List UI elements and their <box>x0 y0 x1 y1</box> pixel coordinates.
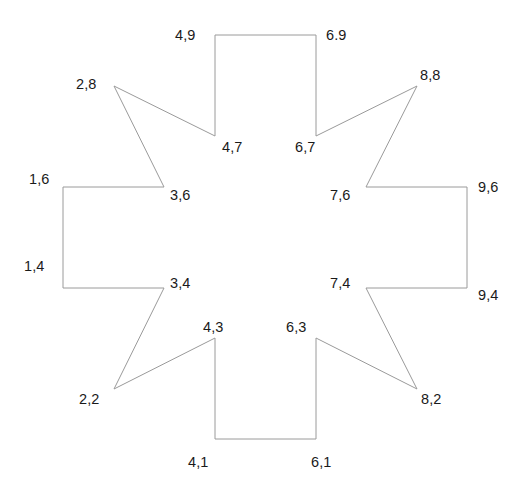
vertex-label-7-6: 7,6 <box>330 188 350 203</box>
vertex-label-2-2: 2,2 <box>79 392 99 407</box>
polygon-canvas <box>0 0 526 496</box>
vertex-label-8-2: 8,2 <box>421 392 441 407</box>
star-polygon-outline <box>63 35 467 439</box>
vertex-label-3-4: 3,4 <box>170 276 190 291</box>
vertex-label-7-4: 7,4 <box>330 276 350 291</box>
vertex-label-6-3: 6,3 <box>286 320 306 335</box>
vertex-label-3-6: 3,6 <box>170 188 190 203</box>
vertex-label-4-7: 4,7 <box>222 140 242 155</box>
vertex-label-4-1: 4,1 <box>188 455 208 470</box>
vertex-label-1-6: 1,6 <box>29 172 49 187</box>
vertex-label-4-9: 4,9 <box>175 28 195 43</box>
vertex-label-1-4: 1,4 <box>24 259 44 274</box>
vertex-label-6-7: 6,7 <box>295 140 315 155</box>
vertex-label-6-9: 6.9 <box>326 28 346 43</box>
vertex-label-2-8: 2,8 <box>76 77 96 92</box>
vertex-label-9-6: 9,6 <box>478 180 498 195</box>
coordinate-polygon-figure: 4,96.96,78,87,69,69,47,48,26,36,14,14,32… <box>0 0 526 496</box>
vertex-label-6-1: 6,1 <box>311 455 331 470</box>
vertex-label-9-4: 9,4 <box>478 288 498 303</box>
vertex-label-4-3: 4,3 <box>203 320 223 335</box>
vertex-label-8-8: 8,8 <box>420 68 440 83</box>
